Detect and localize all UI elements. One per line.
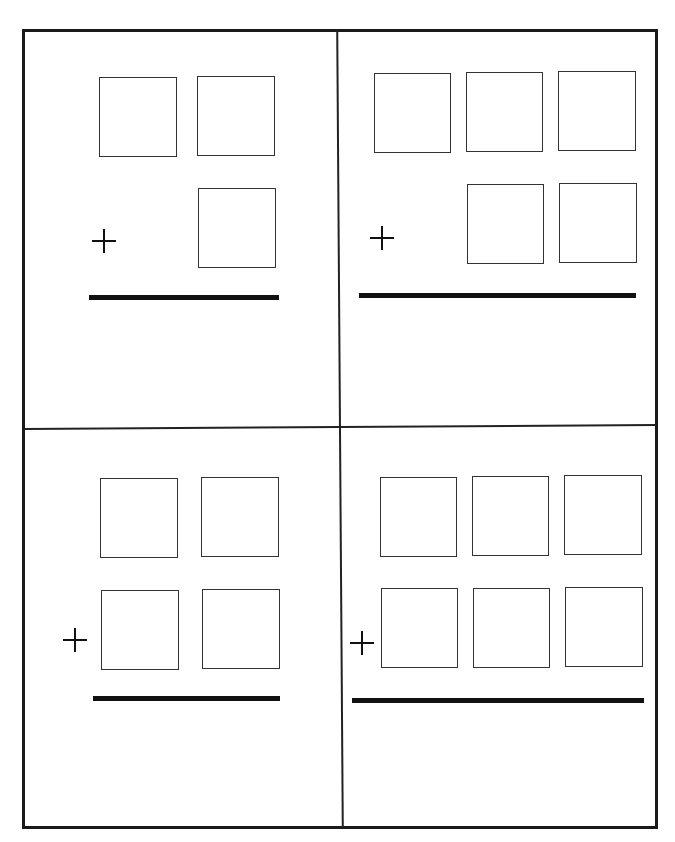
digit-box-p2-top-hundreds[interactable] [374,73,451,153]
digit-box-p4-top-ones[interactable] [564,475,642,555]
digit-box-p4-bottom-tens[interactable] [473,588,550,668]
digit-box-p4-bottom-hundreds[interactable] [381,588,458,668]
answer-line [352,698,644,703]
digit-box-p2-top-ones[interactable] [558,71,636,151]
digit-box-p1-bottom-ones[interactable] [198,188,276,268]
digit-box-p1-top-tens[interactable] [99,77,177,157]
plus-icon [63,628,87,652]
digit-box-p3-top-ones[interactable] [201,477,279,557]
digit-box-p1-top-ones[interactable] [197,76,275,156]
digit-box-p3-top-tens[interactable] [100,478,178,558]
digit-box-p3-bottom-ones[interactable] [202,589,280,669]
digit-box-p4-top-tens[interactable] [472,476,549,556]
digit-box-p3-bottom-tens[interactable] [101,590,179,670]
answer-line [359,293,636,298]
answer-line [93,696,280,701]
digit-box-p2-top-tens[interactable] [466,72,543,152]
digit-box-p2-bottom-ones[interactable] [559,183,637,263]
plus-icon [370,226,394,250]
digit-box-p2-bottom-tens[interactable] [467,184,544,264]
plus-icon [92,229,116,253]
answer-line [89,295,279,300]
plus-icon [350,631,374,655]
digit-box-p4-top-hundreds[interactable] [380,477,457,557]
digit-box-p4-bottom-ones[interactable] [565,587,643,667]
